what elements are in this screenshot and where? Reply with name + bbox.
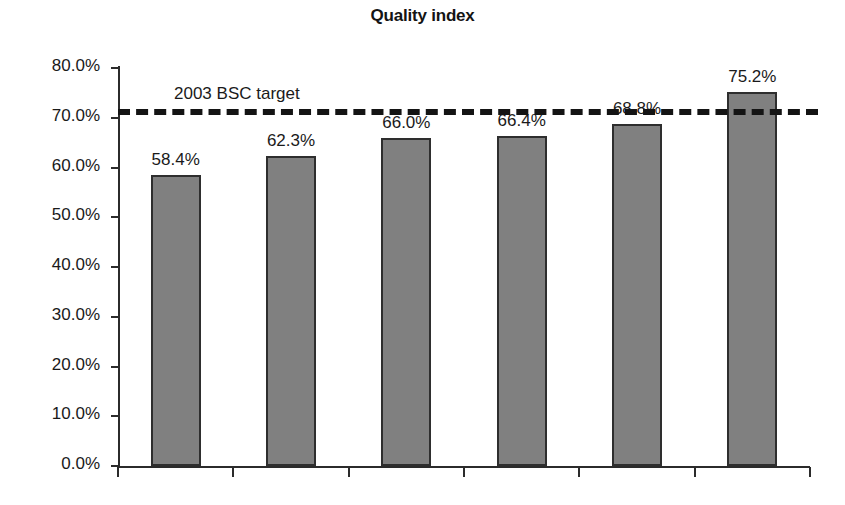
bar-value-label: 75.2%	[707, 67, 797, 87]
y-axis-tick-label: 20.0%	[52, 355, 100, 375]
y-axis-tick: 50.0%	[111, 216, 119, 218]
target-line	[118, 109, 818, 115]
y-axis-tick: 20.0%	[111, 366, 119, 368]
y-axis-tick: 80.0%	[111, 67, 119, 69]
y-axis-tick-label: 50.0%	[52, 205, 100, 225]
bar-value-label: 58.4%	[131, 150, 221, 170]
x-axis-tick	[117, 467, 119, 477]
y-axis-tick: 30.0%	[111, 316, 119, 318]
y-axis-tick: 70.0%	[111, 117, 119, 119]
bar	[266, 156, 316, 466]
chart-title: Quality index	[0, 6, 845, 26]
x-axis-tick	[348, 467, 350, 477]
y-axis-tick-label: 70.0%	[52, 106, 100, 126]
y-axis-tick: 40.0%	[111, 266, 119, 268]
bar	[727, 92, 777, 466]
x-axis-tick	[578, 467, 580, 477]
y-axis-tick-label: 30.0%	[52, 305, 100, 325]
y-axis-tick: 60.0%	[111, 167, 119, 169]
y-axis-tick-label: 80.0%	[52, 56, 100, 76]
x-axis-tick	[809, 467, 811, 477]
y-axis-tick-label: 10.0%	[52, 404, 100, 424]
x-axis-tick	[463, 467, 465, 477]
target-line-label: 2003 BSC target	[174, 84, 300, 104]
bar-value-label: 66.0%	[361, 113, 451, 133]
y-axis-tick-label: 40.0%	[52, 255, 100, 275]
y-axis-tick-label: 60.0%	[52, 156, 100, 176]
y-axis-tick: 10.0%	[111, 415, 119, 417]
bar	[612, 124, 662, 466]
bar	[151, 175, 201, 466]
bar	[497, 136, 547, 466]
bar	[381, 138, 431, 466]
x-axis-tick	[694, 467, 696, 477]
y-axis-tick-label: 0.0%	[61, 454, 100, 474]
bar-value-label: 62.3%	[246, 131, 336, 151]
plot-area: 0.0%10.0%20.0%30.0%40.0%50.0%60.0%70.0%8…	[118, 68, 810, 466]
x-axis-tick	[232, 467, 234, 477]
quality-index-chart: Quality index 0.0%10.0%20.0%30.0%40.0%50…	[0, 0, 845, 505]
